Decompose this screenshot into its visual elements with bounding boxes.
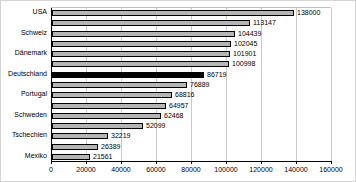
bar: [52, 113, 161, 119]
category-label: Dänemark: [15, 49, 47, 57]
gridline: [296, 8, 297, 162]
plot-area: 1380001131471044391020451019011009988671…: [51, 7, 331, 162]
bar: [52, 92, 172, 98]
value-label: 62468: [164, 112, 183, 120]
bar: [52, 133, 108, 139]
bar: [52, 61, 229, 67]
x-tick-mark: [296, 161, 297, 164]
value-label: 86719: [207, 71, 226, 79]
value-label: 64957: [169, 102, 188, 110]
value-label: 68816: [175, 91, 194, 99]
bar: [52, 82, 187, 88]
value-label: 52099: [146, 122, 165, 130]
value-label: 101901: [233, 50, 256, 58]
bar: [52, 154, 90, 160]
bar-highlighted: [52, 72, 204, 78]
value-label: 100998: [232, 60, 255, 68]
x-tick-mark: [121, 161, 122, 164]
value-label: 26389: [101, 143, 120, 151]
value-label: 102045: [234, 40, 257, 48]
x-tick-mark: [86, 161, 87, 164]
bar: [52, 31, 235, 37]
category-label: Tschechien: [12, 131, 47, 139]
gridline: [331, 8, 332, 162]
bar: [52, 103, 166, 109]
category-label: Schweiz: [21, 29, 47, 37]
x-tick-mark: [191, 161, 192, 164]
value-label: 76889: [190, 81, 209, 89]
x-tick-mark: [331, 161, 332, 164]
bar: [52, 144, 98, 150]
category-label: USA: [33, 8, 47, 16]
value-label: 113147: [253, 19, 276, 27]
x-tick-label: 160000: [309, 166, 353, 174]
bar-chart: USASchweizDänemarkDeutschlandPortugalSch…: [0, 0, 356, 182]
x-tick-mark: [51, 161, 52, 164]
value-label: 21561: [93, 153, 112, 161]
value-label: 104439: [238, 30, 261, 38]
bar: [52, 20, 250, 26]
category-label: Schweden: [14, 111, 47, 119]
category-label: Mexiko: [25, 152, 47, 160]
bar: [52, 51, 230, 57]
x-tick-mark: [156, 161, 157, 164]
bar: [52, 41, 231, 47]
value-label: 138000: [297, 9, 320, 17]
bar: [52, 10, 294, 16]
x-tick-mark: [261, 161, 262, 164]
category-label: Deutschland: [8, 70, 47, 78]
bar: [52, 123, 143, 129]
category-axis: USASchweizDänemarkDeutschlandPortugalSch…: [1, 7, 47, 161]
value-label: 32219: [111, 132, 130, 140]
x-tick-mark: [226, 161, 227, 164]
category-label: Portugal: [21, 90, 47, 98]
